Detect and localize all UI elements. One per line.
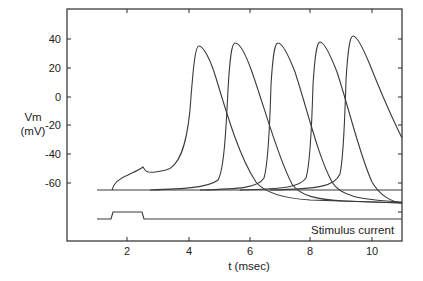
trace-4 <box>240 42 402 203</box>
trace-2 <box>150 43 402 203</box>
x-tick-label: 4 <box>186 245 192 257</box>
stimulus-current-label: Stimulus current <box>311 224 395 236</box>
x-tick-label: 10 <box>366 245 378 257</box>
y-tick-label: 0 <box>55 91 61 103</box>
y-axis-unit: (mV) <box>21 125 46 137</box>
x-tick-label: 2 <box>124 245 130 257</box>
y-axis-label: Vm <box>24 111 41 123</box>
x-axis-label: t (msec) <box>228 260 270 272</box>
x-tick-label: 8 <box>307 245 313 257</box>
y-tick-label: -40 <box>45 148 61 160</box>
plot-frame <box>67 9 402 241</box>
voltage-traces <box>97 36 402 203</box>
chart: 40 20 0 -20 -40 -60 Vm (mV) 2 4 6 8 10 t… <box>0 0 423 281</box>
x-tick-label: 6 <box>247 245 253 257</box>
y-tick-label: -60 <box>45 177 61 189</box>
y-tick-label: 40 <box>49 33 61 45</box>
y-tick-label: -20 <box>45 119 61 131</box>
trace-1 <box>112 46 402 203</box>
y-tick-label: 20 <box>49 62 61 74</box>
stimulus-current-trace <box>97 212 402 219</box>
